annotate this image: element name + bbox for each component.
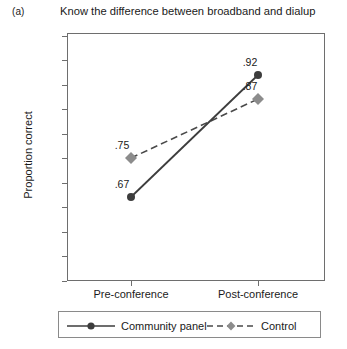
legend-sample-dashed-diamond-icon [207,319,255,333]
chart-figure: (a) Know the difference between broadban… [0,0,347,349]
legend-label-community-panel: Community panel [121,320,207,332]
legend-item-community-panel: Community panel [67,312,207,339]
data-label-control-pre: .75 [115,139,130,151]
x-tick-label-pre: Pre-conference [93,288,168,300]
data-label-community-panel-post: .92 [243,56,258,68]
panel-label: (a) [12,6,25,17]
legend-label-control: Control [261,320,296,332]
chart-legend: Community panel Control [58,311,321,338]
legend-item-control: Control [207,312,296,339]
chart-title: Know the difference between broadband an… [60,5,342,17]
y-axis-label: Proportion correct [22,80,34,230]
legend-sample-solid-circle-icon [67,319,115,333]
data-label-community-panel-pre: .67 [115,178,130,190]
plot-area [67,33,325,281]
data-label-control-post: .87 [243,80,258,92]
x-tick-label-post: Post-conference [218,288,298,300]
